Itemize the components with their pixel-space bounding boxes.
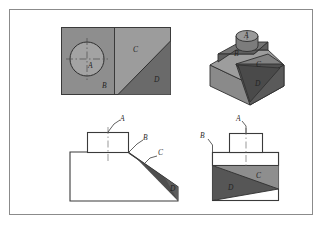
side-leader-a	[242, 121, 246, 133]
front-label-b: B	[143, 134, 148, 142]
top-label-d: D	[154, 76, 159, 84]
side-label-b: B	[200, 132, 205, 140]
side-label-d: D	[228, 184, 233, 192]
side-label-a: A	[236, 115, 241, 123]
iso-label-d: D	[255, 80, 260, 88]
figure-page: A B C D	[0, 0, 324, 226]
side-label-c: C	[256, 172, 261, 180]
iso-label-a: A	[244, 32, 249, 40]
figure-frame: A B C D	[9, 9, 313, 215]
iso-label-c: C	[256, 61, 261, 69]
front-leader-a	[108, 120, 120, 132]
front-leader-c	[144, 156, 157, 164]
top-label-b: B	[102, 82, 107, 90]
side-view: A B C D	[200, 115, 292, 211]
front-leader-b	[129, 140, 143, 152]
front-label-d: D	[170, 185, 175, 193]
side-view-band-b	[213, 153, 279, 166]
top-view: A B C D	[61, 27, 171, 95]
front-view: A B C D	[61, 115, 183, 211]
side-leader-b	[208, 139, 213, 153]
pictorial-view: A B C D	[206, 24, 298, 106]
top-label-a: A	[88, 62, 93, 70]
front-label-c: C	[158, 149, 163, 157]
iso-label-b: B	[234, 50, 239, 58]
top-label-c: C	[133, 46, 138, 54]
front-label-a: A	[120, 115, 125, 123]
